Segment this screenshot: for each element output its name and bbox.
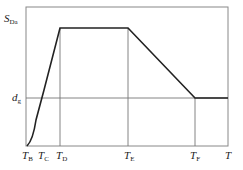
tick-label-tb: TB <box>22 149 33 163</box>
dg-label: dg <box>12 91 22 105</box>
spectrum-curve <box>27 28 228 146</box>
x-axis-label: T <box>225 149 232 161</box>
tick-label-te: TE <box>124 149 134 163</box>
tick-label-tc: TC <box>38 149 49 163</box>
tick-label-td: TD <box>56 149 67 163</box>
tick-label-tf: TF <box>190 149 200 163</box>
response-spectrum-figure: SDa dg TB TC TD TE TF T <box>0 0 243 170</box>
y-axis-label: SDa <box>4 12 19 26</box>
